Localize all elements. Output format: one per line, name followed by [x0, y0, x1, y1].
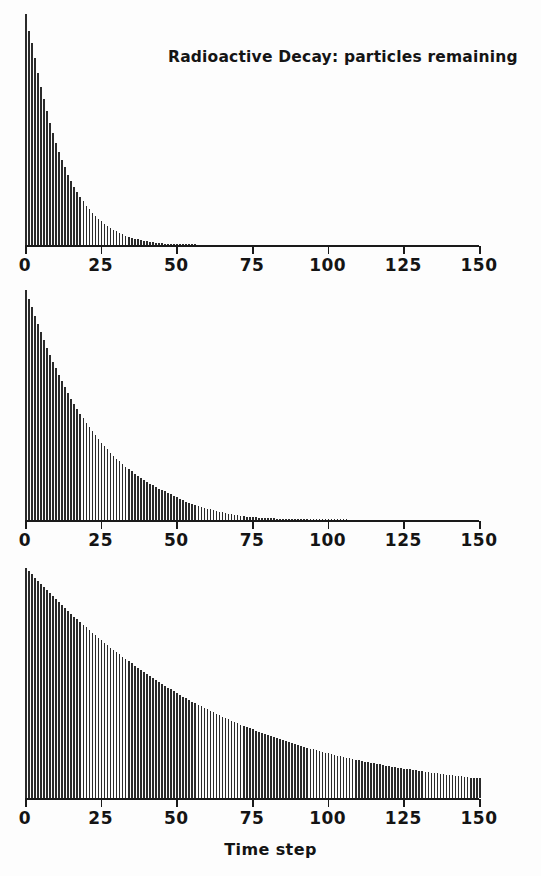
bar	[188, 503, 190, 520]
bar	[198, 506, 200, 520]
x-axis-tick	[252, 521, 254, 529]
bar	[194, 505, 196, 520]
bar	[52, 133, 54, 245]
bar	[179, 695, 181, 798]
plot-area-3	[25, 568, 479, 798]
x-axis-tick-label: 100	[309, 255, 346, 275]
bar	[134, 474, 136, 520]
bar	[64, 387, 66, 520]
bar	[443, 774, 445, 798]
bar	[64, 167, 66, 245]
bar	[104, 446, 106, 520]
bar	[182, 697, 184, 798]
bar	[355, 760, 357, 798]
bar	[25, 14, 27, 245]
bar	[201, 507, 203, 520]
x-axis-tick-label: 150	[461, 808, 498, 828]
x-axis-tick	[252, 799, 254, 807]
bar	[434, 773, 436, 798]
bar	[213, 712, 215, 798]
bar	[25, 568, 27, 798]
bar	[49, 355, 51, 520]
bar	[113, 230, 115, 245]
bar	[382, 765, 384, 798]
x-axis-tick	[479, 246, 481, 254]
bar	[461, 776, 463, 798]
bar	[143, 480, 145, 520]
bar	[152, 485, 154, 520]
x-axis-tick	[101, 799, 103, 807]
bar	[294, 744, 296, 798]
bar	[52, 362, 54, 520]
bar	[337, 756, 339, 798]
bar	[216, 511, 218, 520]
bar	[403, 769, 405, 798]
bar	[137, 668, 139, 798]
bar	[86, 627, 88, 798]
bar	[61, 605, 63, 798]
bar	[440, 774, 442, 798]
bar	[92, 213, 94, 245]
bar	[131, 663, 133, 798]
bar	[167, 688, 169, 798]
bar	[282, 740, 284, 798]
bar	[370, 763, 372, 798]
x-axis-tick-label: 75	[240, 255, 265, 275]
x-axis-tick	[328, 521, 330, 529]
bar	[240, 725, 242, 798]
bar	[373, 763, 375, 798]
bar	[473, 778, 475, 798]
bar	[92, 431, 94, 520]
bar	[58, 152, 60, 245]
x-axis-tick-label: 100	[309, 808, 346, 828]
bar	[92, 633, 94, 798]
bar	[358, 760, 360, 798]
bar	[119, 654, 121, 798]
bar	[352, 759, 354, 798]
bar	[421, 771, 423, 798]
bar	[191, 504, 193, 520]
bar	[467, 777, 469, 798]
bar	[98, 219, 100, 245]
bar	[152, 678, 154, 798]
bar	[104, 224, 106, 245]
bar	[255, 731, 257, 798]
bar	[397, 768, 399, 798]
bar	[58, 375, 60, 520]
x-axis-tick	[101, 246, 103, 254]
bar	[261, 733, 263, 798]
bar	[86, 423, 88, 520]
x-axis-tick-label: 50	[164, 530, 189, 550]
bar	[131, 471, 133, 520]
bar	[73, 187, 75, 245]
bar	[43, 587, 45, 798]
bar	[116, 231, 118, 245]
bar	[110, 453, 112, 520]
x-axis-tick	[328, 246, 330, 254]
bar	[207, 509, 209, 520]
bar	[101, 443, 103, 520]
bar	[134, 666, 136, 798]
bar	[176, 693, 178, 798]
bar	[412, 770, 414, 798]
bar	[185, 502, 187, 520]
bar	[43, 99, 45, 245]
bar	[161, 490, 163, 520]
x-axis-tick	[101, 521, 103, 529]
bar	[288, 742, 290, 798]
bar	[31, 574, 33, 798]
bar	[28, 571, 30, 798]
bar	[340, 756, 342, 798]
x-axis-tick-label: 50	[164, 255, 189, 275]
bar	[267, 735, 269, 798]
bar	[73, 617, 75, 798]
x-axis-tick-label: 75	[240, 530, 265, 550]
bar	[225, 513, 227, 520]
x-axis-tick	[176, 799, 178, 807]
bar	[170, 689, 172, 798]
bar	[34, 58, 36, 245]
bar	[131, 238, 133, 245]
bar	[334, 755, 336, 798]
bar	[64, 608, 66, 798]
bar-series-2	[25, 290, 479, 520]
